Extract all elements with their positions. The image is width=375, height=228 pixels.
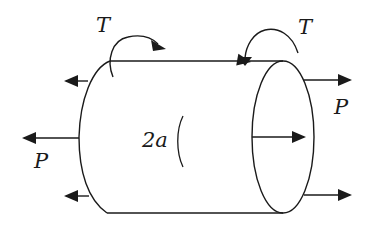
torque-arrow-left (110, 36, 166, 77)
label-torque-left: T (96, 13, 112, 37)
diagram-canvas: T T P P 2a (0, 0, 375, 228)
label-torque-right: T (298, 15, 314, 39)
label-axial-right: P (333, 95, 349, 119)
cylinder-left-end-curve (79, 61, 110, 213)
cylinder-diagram: T T P P 2a (0, 0, 375, 228)
label-axial-left: P (33, 149, 49, 173)
diameter-arc-icon (178, 116, 183, 167)
label-diameter: 2a (141, 128, 168, 152)
